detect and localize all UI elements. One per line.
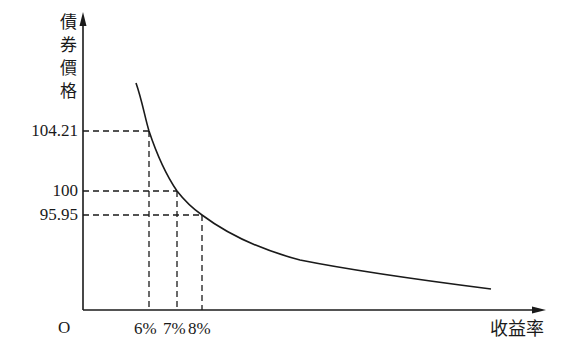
bond-price-yield-chart [0, 0, 573, 357]
y-tick-label: 104.21 [0, 122, 78, 139]
guide-lines [83, 131, 202, 310]
y-axis-label-char: 格 [60, 83, 77, 100]
x-axis-arrow-icon [532, 307, 546, 314]
x-tick-label: 6% [134, 320, 157, 337]
y-axis-label-char: 債 [60, 14, 77, 31]
origin-label: O [58, 319, 70, 336]
x-tick-label: 7% [163, 320, 186, 337]
y-tick-label: 95.95 [0, 206, 78, 223]
y-axis-label-char: 券 [60, 37, 77, 54]
y-axis-arrow-icon [80, 12, 87, 26]
x-tick-label: 8% [188, 320, 211, 337]
y-axis-label-char: 價 [60, 60, 77, 77]
y-tick-label: 100 [0, 182, 78, 199]
x-axis-label: 收益率 [490, 320, 544, 338]
price-yield-curve [136, 83, 491, 289]
